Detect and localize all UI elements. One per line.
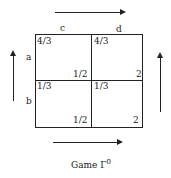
column-label-d: d bbox=[116, 25, 122, 34]
left-arrow-head-icon bbox=[10, 50, 16, 56]
right-arrow bbox=[160, 57, 161, 112]
payoff-matrix bbox=[35, 34, 143, 128]
cell-bd-bottom-right: 2 bbox=[133, 116, 139, 125]
cell-bc-top-left: 1/3 bbox=[37, 82, 51, 91]
cell-ad-bottom-right: 2 bbox=[136, 70, 142, 79]
left-arrow bbox=[13, 55, 14, 101]
cell-bd-top-left: 1/3 bbox=[94, 82, 108, 91]
right-arrow-head-icon bbox=[157, 52, 163, 58]
caption-superscript: 0 bbox=[107, 158, 111, 166]
top-arrow bbox=[55, 12, 121, 13]
matrix-divider-vertical bbox=[91, 34, 92, 128]
bottom-arrow-head-icon bbox=[117, 139, 123, 145]
column-label-c: c bbox=[60, 24, 65, 33]
caption-text: Game Γ bbox=[71, 160, 107, 170]
row-label-a: a bbox=[26, 53, 31, 62]
cell-ac-top-left: 4/3 bbox=[37, 37, 51, 46]
cell-bc-bottom-right: 1/2 bbox=[73, 116, 87, 125]
bottom-arrow bbox=[53, 142, 117, 143]
cell-ad-top-left: 4/3 bbox=[94, 37, 108, 46]
top-arrow-head-icon bbox=[120, 9, 126, 15]
row-label-b: b bbox=[26, 97, 32, 106]
matrix-divider-horizontal bbox=[35, 80, 143, 81]
cell-ac-bottom-right: 1/2 bbox=[73, 70, 87, 79]
caption: Game Γ0 bbox=[71, 158, 111, 170]
